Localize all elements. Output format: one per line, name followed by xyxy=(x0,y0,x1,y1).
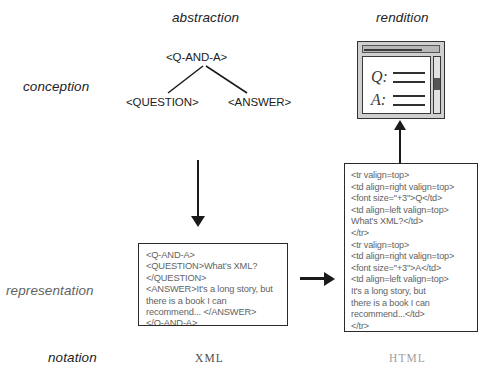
window-content-area: Q: A: xyxy=(362,56,431,114)
row-label-representation: representation xyxy=(6,283,94,298)
arrow-head xyxy=(394,120,406,130)
tree-node-answer: <ANSWER> xyxy=(228,96,291,108)
notation-label-xml: XML xyxy=(195,352,224,364)
arrow-head xyxy=(191,216,205,227)
arrow-down-abstraction-to-xml xyxy=(185,160,215,235)
rendition-text-line xyxy=(393,81,425,83)
xml-source-box: <Q-AND-A> <QUESTION>What's XML? </QUESTI… xyxy=(138,243,288,326)
tree-node-question: <QUESTION> xyxy=(126,96,199,108)
browser-window-icon: Q: A: xyxy=(357,41,445,119)
xml-source-code: <Q-AND-A> <QUESTION>What's XML? </QUESTI… xyxy=(139,244,287,326)
rendition-text-line xyxy=(393,95,425,97)
arrow-shaft xyxy=(197,160,199,218)
arrow-head xyxy=(324,272,335,286)
rendition-text-line xyxy=(393,104,425,106)
html-source-code: <tr valign=top> <td align=right valign=t… xyxy=(345,164,477,332)
rendition-answer-glyph: A: xyxy=(371,92,386,108)
row-label-notation: notation xyxy=(48,350,97,365)
arrow-shaft xyxy=(300,277,326,280)
rendition-question-glyph: Q: xyxy=(371,69,388,85)
arrow-up-html-to-rendition xyxy=(392,120,414,164)
rendition-text-line xyxy=(393,72,425,74)
window-titlebar xyxy=(362,45,440,53)
window-scrollbar[interactable] xyxy=(433,56,441,114)
html-source-box: <tr valign=top> <td align=right valign=t… xyxy=(344,163,478,332)
arrow-right-xml-to-html xyxy=(300,270,344,290)
arrow-shaft xyxy=(399,129,401,163)
notation-label-html: HTML xyxy=(389,352,426,364)
